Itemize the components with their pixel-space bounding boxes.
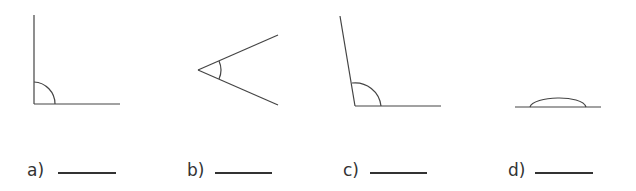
angle-c	[340, 16, 441, 106]
answer-blank-b[interactable]	[215, 172, 272, 174]
answer-blank-c[interactable]	[370, 172, 427, 174]
angle-d	[515, 98, 601, 107]
angle-b	[198, 35, 278, 105]
label-b: b)	[187, 162, 204, 179]
angle-a	[34, 15, 120, 104]
angles-diagram	[0, 0, 636, 191]
label-c: c)	[343, 162, 359, 179]
label-d: d)	[508, 162, 525, 179]
answer-blank-a[interactable]	[58, 172, 116, 174]
answer-blank-d[interactable]	[535, 172, 593, 174]
label-a: a)	[27, 162, 44, 179]
